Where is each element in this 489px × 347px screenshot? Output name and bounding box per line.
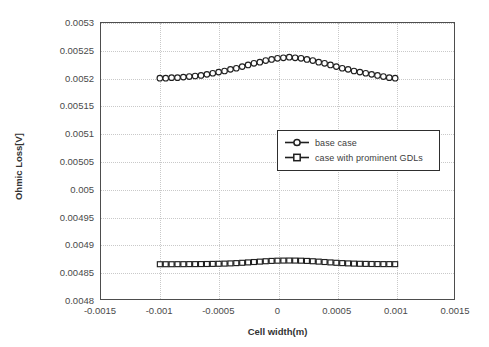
legend-item-base-case: base case <box>284 135 433 150</box>
gridline-vertical <box>160 23 161 299</box>
gridline-horizontal <box>101 106 454 107</box>
y-axis-tick-label: 0.0048 <box>24 295 94 306</box>
gridline-horizontal <box>101 245 454 246</box>
data-point-marker-circle <box>304 57 310 63</box>
data-point-marker-circle <box>375 73 381 79</box>
data-point-marker-square <box>257 259 262 264</box>
data-point-marker-circle <box>292 55 298 61</box>
data-point-marker-square <box>240 260 245 265</box>
data-point-marker-circle <box>357 69 363 75</box>
data-point-marker-square <box>316 259 321 264</box>
data-point-marker-square <box>204 262 209 267</box>
data-point-marker-square <box>293 258 298 263</box>
data-point-marker-circle <box>281 55 287 61</box>
data-point-marker-circle <box>269 57 275 63</box>
gridline-horizontal <box>101 51 454 52</box>
data-point-marker-square <box>193 262 198 267</box>
gridline-horizontal <box>101 218 454 219</box>
y-axis-tick-label: 0.0052 <box>24 72 94 83</box>
gridline-horizontal <box>101 190 454 191</box>
data-point-marker-square <box>228 261 233 266</box>
data-point-marker-circle <box>198 73 204 79</box>
data-point-marker-square <box>234 261 239 266</box>
data-point-marker-circle <box>263 58 269 64</box>
data-point-marker-circle <box>251 61 257 67</box>
data-point-marker-square <box>375 262 380 267</box>
legend-item-prominent-gdls: case with prominent GDLs <box>284 150 433 165</box>
data-point-marker-circle <box>322 61 328 67</box>
gridline-horizontal <box>101 79 454 80</box>
data-point-marker-circle <box>298 56 304 62</box>
legend-label-prominent-gdls: case with prominent GDLs <box>315 153 423 163</box>
data-point-marker-circle <box>339 65 345 71</box>
data-point-marker-square <box>181 262 186 267</box>
data-point-marker-circle <box>222 68 228 74</box>
data-point-marker-square <box>175 262 180 267</box>
data-point-marker-square <box>369 262 374 267</box>
y-axis-tick-label: 0.00505 <box>24 156 94 167</box>
data-point-marker-square <box>387 262 392 267</box>
y-axis-tick-label: 0.00525 <box>24 44 94 55</box>
y-axis-tick-label: 0.00495 <box>24 211 94 222</box>
y-axis-tick-label: 0.0051 <box>24 128 94 139</box>
legend-marker-circle-icon <box>284 137 310 148</box>
series-line <box>160 261 395 265</box>
data-point-marker-square <box>269 258 274 263</box>
y-axis-tick-label: 0.00485 <box>24 267 94 278</box>
legend-label-base-case: base case <box>315 138 357 148</box>
gridline-horizontal <box>101 273 454 274</box>
x-axis-tick-label: 0.0015 <box>420 305 489 316</box>
data-point-marker-circle <box>328 62 334 68</box>
data-point-marker-circle <box>239 64 245 70</box>
data-point-marker-square <box>222 261 227 266</box>
y-axis-tick-label: 0.0053 <box>24 17 94 28</box>
data-point-marker-square <box>287 258 292 263</box>
chart-legend: base case case with prominent GDLs <box>277 130 440 171</box>
data-point-marker-square <box>169 262 174 267</box>
data-point-marker-circle <box>257 59 263 65</box>
data-point-marker-square <box>381 262 386 267</box>
ohmic-loss-chart: 0.00480.004850.00490.004950.0050.005050.… <box>0 0 489 347</box>
data-point-marker-square <box>322 260 327 265</box>
data-point-marker-square <box>346 261 351 266</box>
data-point-marker-square <box>199 262 204 267</box>
data-point-marker-circle <box>351 68 357 74</box>
legend-marker-square-icon <box>284 152 310 163</box>
data-point-marker-square <box>352 261 357 266</box>
data-point-marker-square <box>363 261 368 266</box>
data-point-marker-square <box>299 258 304 263</box>
data-point-marker-square <box>340 261 345 266</box>
y-axis-tick-label: 0.00515 <box>24 100 94 111</box>
data-point-marker-square <box>246 260 251 265</box>
gridline-horizontal <box>101 23 454 24</box>
data-point-marker-circle <box>234 65 240 71</box>
data-point-marker-square <box>310 259 315 264</box>
y-axis-title: Ohmic Loss[V] <box>13 97 24 237</box>
data-point-marker-circle <box>369 72 375 78</box>
data-point-marker-square <box>210 261 215 266</box>
data-point-marker-circle <box>310 58 316 64</box>
x-axis-title: Cell width(m) <box>100 326 455 337</box>
data-point-marker-circle <box>210 70 216 76</box>
series-line <box>160 57 395 78</box>
data-point-marker-square <box>281 258 286 263</box>
data-point-marker-circle <box>316 59 322 65</box>
data-point-marker-square <box>263 259 268 264</box>
gridline-vertical <box>219 23 220 299</box>
data-point-marker-circle <box>245 62 251 68</box>
data-point-marker-square <box>328 260 333 265</box>
data-point-marker-square <box>251 260 256 265</box>
data-point-marker-square <box>304 258 309 263</box>
y-axis-tick-label: 0.005 <box>24 183 94 194</box>
y-axis-tick-label: 0.0049 <box>24 239 94 250</box>
data-point-marker-square <box>187 262 192 267</box>
data-point-marker-square <box>163 262 168 267</box>
data-point-marker-circle <box>363 70 369 76</box>
data-point-marker-circle <box>204 72 210 78</box>
data-point-marker-square <box>357 261 362 266</box>
data-point-marker-circle <box>345 67 351 73</box>
data-point-marker-circle <box>228 67 234 73</box>
data-point-marker-circle <box>286 54 292 60</box>
